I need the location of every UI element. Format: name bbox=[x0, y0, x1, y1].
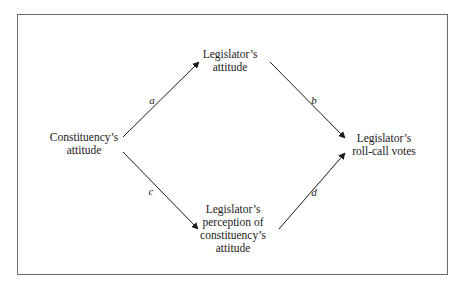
node-line: attitude bbox=[200, 242, 266, 255]
edge-label-d: d bbox=[311, 186, 317, 198]
node-line: Constituency’s bbox=[50, 131, 118, 144]
arrow-a bbox=[123, 62, 199, 137]
edge-label-c: c bbox=[149, 185, 154, 197]
node-line: roll-call votes bbox=[352, 145, 416, 158]
node-legislator-perception: Legislator’s perception of constituency’… bbox=[200, 203, 266, 255]
node-legislator-attitude: Legislator’s attitude bbox=[203, 48, 258, 74]
edge-label-a: a bbox=[149, 94, 155, 106]
edge-label-b: b bbox=[311, 94, 317, 106]
node-constituency-attitude: Constituency’s attitude bbox=[50, 131, 118, 157]
node-roll-call-votes: Legislator’s roll-call votes bbox=[352, 132, 416, 158]
node-line: attitude bbox=[50, 144, 118, 157]
node-line: Legislator’s bbox=[352, 132, 416, 145]
node-line: attitude bbox=[203, 61, 258, 74]
node-line: Legislator’s bbox=[200, 203, 266, 216]
arrow-c bbox=[123, 152, 198, 229]
node-line: constituency’s bbox=[200, 229, 266, 242]
arrow-b bbox=[270, 62, 345, 138]
node-line: Legislator’s bbox=[203, 48, 258, 61]
node-line: perception of bbox=[200, 216, 266, 229]
